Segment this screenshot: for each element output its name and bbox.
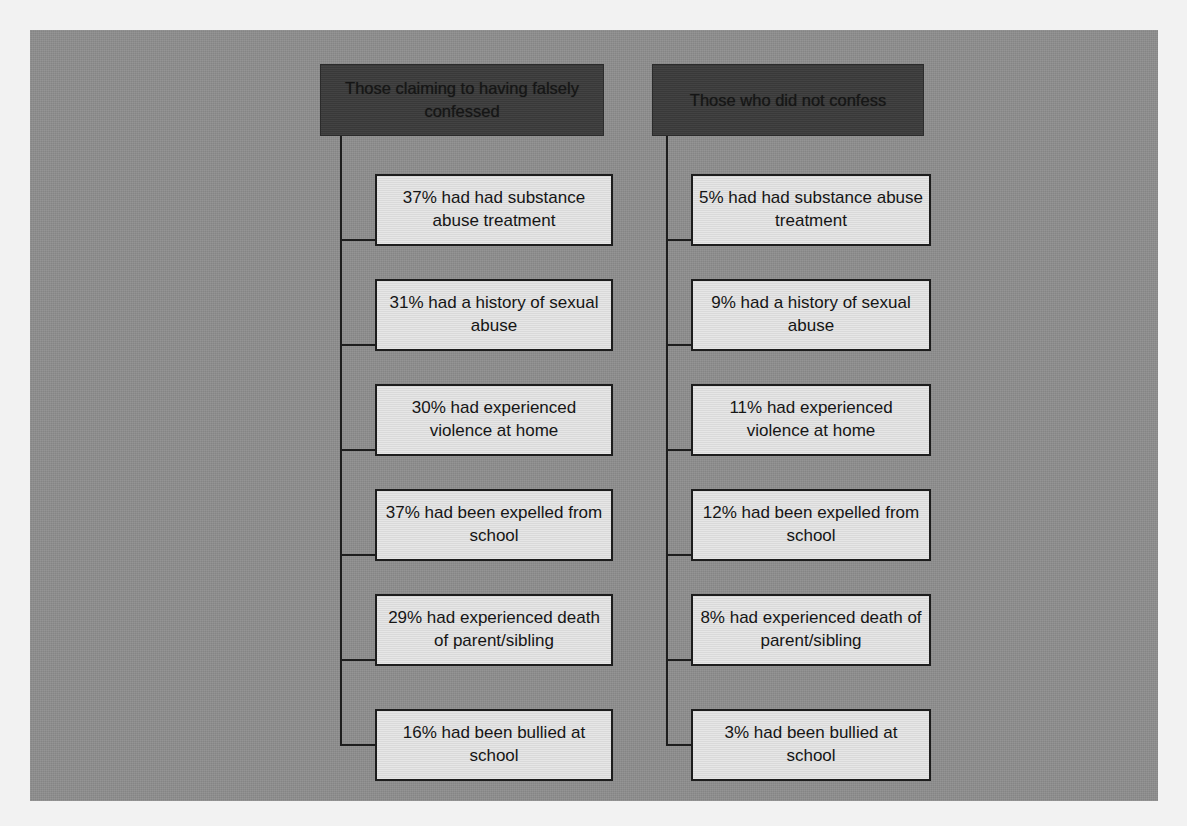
node-box: 9% had a history of sexual abuse xyxy=(691,279,931,351)
node-label: 29% had experienced death of parent/sibl… xyxy=(383,607,605,653)
connector-trunk-right xyxy=(666,136,668,746)
connector-branch-left-5 xyxy=(340,659,376,661)
node-label: 37% had had substance abuse treatment xyxy=(383,187,605,233)
column-falsely-confessed: Those claiming to having falsely confess… xyxy=(295,30,635,801)
node-box: 30% had experienced violence at home xyxy=(375,384,613,456)
node-label: 9% had a history of sexual abuse xyxy=(699,292,923,338)
node-label: 12% had been expelled from school xyxy=(699,502,923,548)
node-box: 5% had had substance abuse treatment xyxy=(691,174,931,246)
connector-branch-right-6 xyxy=(666,744,692,746)
node-box: 31% had a history of sexual abuse xyxy=(375,279,613,351)
node-box: 16% had been bullied at school xyxy=(375,709,613,781)
node-label: 37% had been expelled from school xyxy=(383,502,605,548)
node-label: 11% had experienced violence at home xyxy=(699,397,923,443)
connector-branch-right-3 xyxy=(666,449,692,451)
connector-branch-left-1 xyxy=(340,239,376,241)
column-did-not-confess: Those who did not confess 5% had had sub… xyxy=(611,30,951,801)
node-box: 11% had experienced violence at home xyxy=(691,384,931,456)
connector-branch-left-6 xyxy=(340,744,376,746)
node-label: 3% had been bullied at school xyxy=(699,722,923,768)
connector-branch-right-5 xyxy=(666,659,692,661)
diagram-panel: Those claiming to having falsely confess… xyxy=(30,30,1158,801)
column-header-falsely-confessed: Those claiming to having falsely confess… xyxy=(320,64,604,136)
connector-branch-left-2 xyxy=(340,344,376,346)
connector-branch-right-1 xyxy=(666,239,692,241)
node-label: 16% had been bullied at school xyxy=(383,722,605,768)
node-box: 37% had been expelled from school xyxy=(375,489,613,561)
node-box: 37% had had substance abuse treatment xyxy=(375,174,613,246)
node-box: 8% had experienced death of parent/sibli… xyxy=(691,594,931,666)
node-box: 3% had been bullied at school xyxy=(691,709,931,781)
column-header-did-not-confess: Those who did not confess xyxy=(652,64,924,136)
diagram-figure: Those claiming to having falsely confess… xyxy=(0,0,1187,826)
node-label: 30% had experienced violence at home xyxy=(383,397,605,443)
node-box: 12% had been expelled from school xyxy=(691,489,931,561)
connector-branch-right-2 xyxy=(666,344,692,346)
node-box: 29% had experienced death of parent/sibl… xyxy=(375,594,613,666)
node-label: 8% had experienced death of parent/sibli… xyxy=(699,607,923,653)
connector-trunk-left xyxy=(340,136,342,746)
connector-branch-left-3 xyxy=(340,449,376,451)
node-label: 31% had a history of sexual abuse xyxy=(383,292,605,338)
node-label: 5% had had substance abuse treatment xyxy=(699,187,923,233)
connector-branch-right-4 xyxy=(666,554,692,556)
connector-branch-left-4 xyxy=(340,554,376,556)
